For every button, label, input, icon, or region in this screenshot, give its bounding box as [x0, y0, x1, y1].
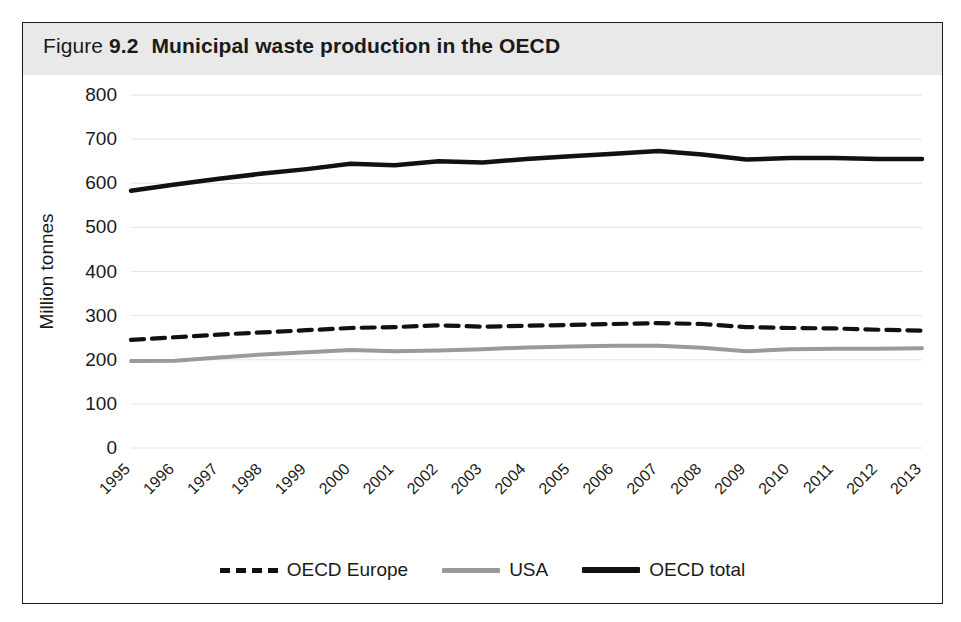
x-axis-tick-label: 2006: [579, 460, 616, 497]
y-axis-tick-label: 0: [106, 437, 117, 458]
figure-container: Figure 9.2 Municipal waste production in…: [22, 22, 943, 604]
x-axis-tick-label: 2004: [491, 460, 528, 497]
legend-label: USA: [509, 559, 548, 581]
series-line-usa: [131, 346, 922, 361]
line-chart: 0100200300400500600700800 19951996199719…: [23, 75, 942, 603]
x-axis-tick-label: 1996: [140, 460, 177, 497]
y-axis-tick-label: 600: [85, 172, 117, 193]
x-axis-tick-label: 1998: [228, 460, 265, 497]
x-axis-tick-label: 1995: [96, 460, 133, 497]
x-axis-tick-label: 2003: [447, 460, 484, 497]
x-axis-tick-label: 2013: [887, 460, 924, 497]
x-axis-tick-label: 2012: [843, 460, 880, 497]
x-axis-tick-label: 1997: [184, 460, 221, 497]
x-axis-tick-label: 2002: [404, 460, 441, 497]
legend-item-usa[interactable]: USA: [442, 559, 548, 581]
y-axis-tick-label: 500: [85, 216, 117, 237]
chart-plot-area: 0100200300400500600700800 19951996199719…: [23, 75, 942, 603]
x-axis-tick-label: 1999: [272, 460, 309, 497]
figure-title-band: Figure 9.2 Municipal waste production in…: [23, 23, 942, 75]
x-axis-tick-label: 2007: [623, 460, 660, 497]
legend-item-oecd-total[interactable]: OECD total: [582, 559, 745, 581]
figure-number: 9.2: [109, 34, 139, 57]
y-axis-tick-label: 700: [85, 128, 117, 149]
legend-item-oecd-europe[interactable]: OECD Europe: [220, 559, 408, 581]
x-axis-tick-label: 2001: [360, 460, 397, 497]
y-axis-tick-label: 300: [85, 305, 117, 326]
x-axis-tick-label: 2011: [800, 460, 836, 496]
x-axis-tick-label: 2010: [755, 460, 792, 497]
y-axis-tick-label: 200: [85, 349, 117, 370]
y-axis-tick-labels: 0100200300400500600700800: [85, 84, 117, 458]
legend-swatch-icon: [220, 568, 278, 573]
x-axis-tick-label: 2005: [535, 460, 572, 497]
figure-title-text: Municipal waste production in the OECD: [152, 34, 561, 57]
x-axis-tick-label: 2009: [711, 460, 748, 497]
page-title: Figure 9.2 Municipal waste production in…: [43, 34, 560, 58]
y-axis-title: Million tonnes: [36, 213, 57, 329]
x-axis-tick-label: 2008: [667, 460, 704, 497]
gridlines: [131, 95, 922, 448]
y-axis-tick-label: 400: [85, 261, 117, 282]
legend-swatch-icon: [582, 567, 640, 573]
chart-legend: OECD EuropeUSAOECD total: [23, 559, 942, 581]
x-axis-tick-label: 2000: [316, 460, 353, 497]
y-axis-tick-label: 100: [85, 393, 117, 414]
legend-label: OECD Europe: [287, 559, 408, 581]
figure-label: Figure: [43, 34, 103, 57]
series-line-oecd-total: [131, 151, 922, 191]
legend-label: OECD total: [649, 559, 745, 581]
series-line-oecd-europe: [131, 323, 922, 340]
x-axis-tick-labels: 1995199619971998199920002001200220032004…: [96, 460, 924, 497]
data-series: [131, 151, 922, 361]
legend-swatch-icon: [442, 568, 500, 573]
y-axis-tick-label: 800: [85, 84, 117, 105]
